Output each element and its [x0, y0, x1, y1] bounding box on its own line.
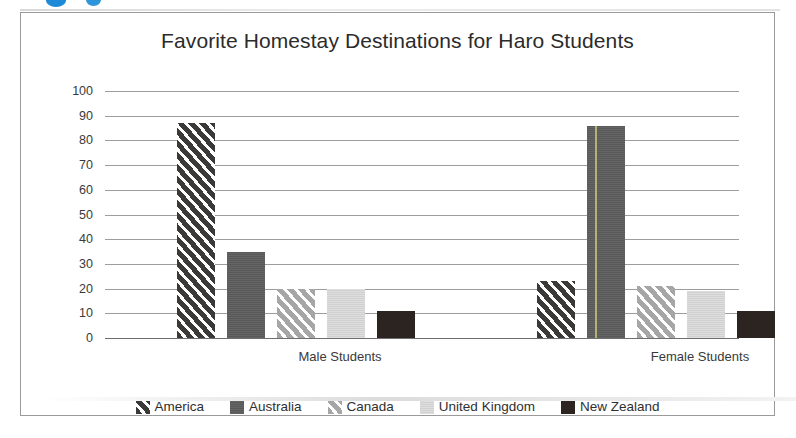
y-axis: 0102030405060708090100	[59, 91, 99, 338]
bar-group	[177, 91, 415, 338]
legend-label: America	[155, 399, 205, 414]
bar-canada[interactable]	[277, 289, 315, 338]
legend-label: Australia	[249, 399, 302, 414]
legend-swatch-america-icon	[136, 400, 150, 414]
plot-canvas	[105, 91, 739, 338]
y-axis-tick-label: 60	[79, 183, 93, 197]
legend-swatch-canada-icon	[328, 400, 342, 414]
y-axis-tick-label: 40	[79, 232, 93, 246]
y-axis-tick-label: 30	[79, 257, 93, 271]
y-axis-tick-label: 100	[72, 84, 93, 98]
bar-australia[interactable]	[227, 252, 265, 338]
y-axis-tick-label: 20	[79, 282, 93, 296]
legend-label: United Kingdom	[439, 399, 535, 414]
chart-frame: Favorite Homestay Destinations for Haro …	[20, 12, 775, 416]
legend-item-america[interactable]: America	[136, 399, 205, 414]
bar-series-container	[105, 91, 739, 338]
bar-newzealand[interactable]	[377, 311, 415, 338]
bar-unitedkingdom[interactable]	[687, 291, 725, 338]
bar-newzealand[interactable]	[737, 311, 775, 338]
scan-edge-smudge	[20, 9, 780, 11]
x-axis-category-label: Male Students	[298, 349, 381, 364]
x-axis-category-labels: Male StudentsFemale Students	[143, 349, 739, 369]
bar-america[interactable]	[177, 123, 215, 338]
y-axis-tick-label: 80	[79, 133, 93, 147]
legend-item-unitedkingdom[interactable]: United Kingdom	[420, 399, 535, 414]
blue-smudge-icon	[86, 0, 101, 6]
bar-group	[537, 91, 775, 338]
x-axis-line	[105, 338, 739, 339]
scan-fold-line	[595, 126, 597, 338]
y-axis-tick-label: 0	[86, 331, 93, 345]
y-axis-tick-label: 90	[79, 109, 93, 123]
bar-australia[interactable]	[587, 126, 625, 338]
legend-item-newzealand[interactable]: New Zealand	[561, 399, 660, 414]
x-axis-category-label: Female Students	[651, 349, 749, 364]
legend-swatch-unitedkingdom-icon	[420, 400, 434, 414]
legend-swatch-newzealand-icon	[561, 400, 575, 414]
bar-canada[interactable]	[637, 286, 675, 338]
blue-smudge-icon	[46, 0, 66, 7]
y-axis-tick-label: 10	[79, 306, 93, 320]
legend-label: New Zealand	[580, 399, 660, 414]
bar-unitedkingdom[interactable]	[327, 289, 365, 338]
y-axis-tick-label: 50	[79, 208, 93, 222]
legend-item-australia[interactable]: Australia	[230, 399, 302, 414]
chart-title: Favorite Homestay Destinations for Haro …	[21, 29, 774, 53]
chart-legend: AmericaAustraliaCanadaUnited KingdomNew …	[21, 399, 774, 414]
bar-america[interactable]	[537, 281, 575, 338]
legend-swatch-australia-icon	[230, 400, 244, 414]
y-axis-tick-label: 70	[79, 158, 93, 172]
plot-area: 0102030405060708090100 Male StudentsFema…	[59, 91, 739, 361]
legend-item-canada[interactable]: Canada	[328, 399, 394, 414]
legend-label: Canada	[347, 399, 394, 414]
